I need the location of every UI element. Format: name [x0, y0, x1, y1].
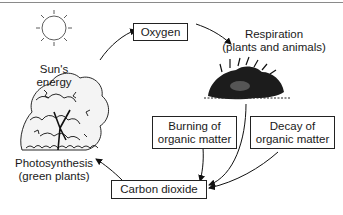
- photosynthesis-line2: (green plants): [12, 170, 96, 183]
- photosynthesis-line1: Photosynthesis: [12, 157, 96, 170]
- decay-line1: Decay of: [251, 120, 334, 133]
- burning-line2: organic matter: [153, 133, 236, 146]
- animal-icon: [204, 57, 290, 99]
- burning-box: Burning of organic matter: [152, 116, 237, 149]
- sun-label-line2: energy: [26, 76, 82, 89]
- oxygen-box: Oxygen: [133, 23, 188, 41]
- sun-icon: [36, 10, 72, 46]
- arrow-decay-to-co2: [209, 152, 278, 188]
- decay-box: Decay of organic matter: [250, 116, 335, 149]
- arrow-photosynthesis-to-oxygen: [100, 30, 136, 60]
- arrow-co2-to-photosynthesis: [96, 159, 122, 180]
- sun-energy-label: Sun's energy: [26, 63, 82, 89]
- sun-label-line1: Sun's: [26, 63, 82, 76]
- burning-line1: Burning of: [153, 120, 236, 133]
- carbon-dioxide-box: Carbon dioxide: [111, 180, 207, 199]
- respiration-line2: (plants and animals): [218, 41, 330, 54]
- photosynthesis-label: Photosynthesis (green plants): [12, 157, 96, 183]
- decay-line2: organic matter: [251, 133, 334, 146]
- carbon-dioxide-label: Carbon dioxide: [120, 183, 197, 195]
- oxygen-label: Oxygen: [141, 26, 181, 38]
- respiration-label: Respiration (plants and animals): [218, 28, 330, 54]
- arrow-burning-to-co2: [200, 148, 203, 181]
- respiration-line1: Respiration: [218, 28, 330, 41]
